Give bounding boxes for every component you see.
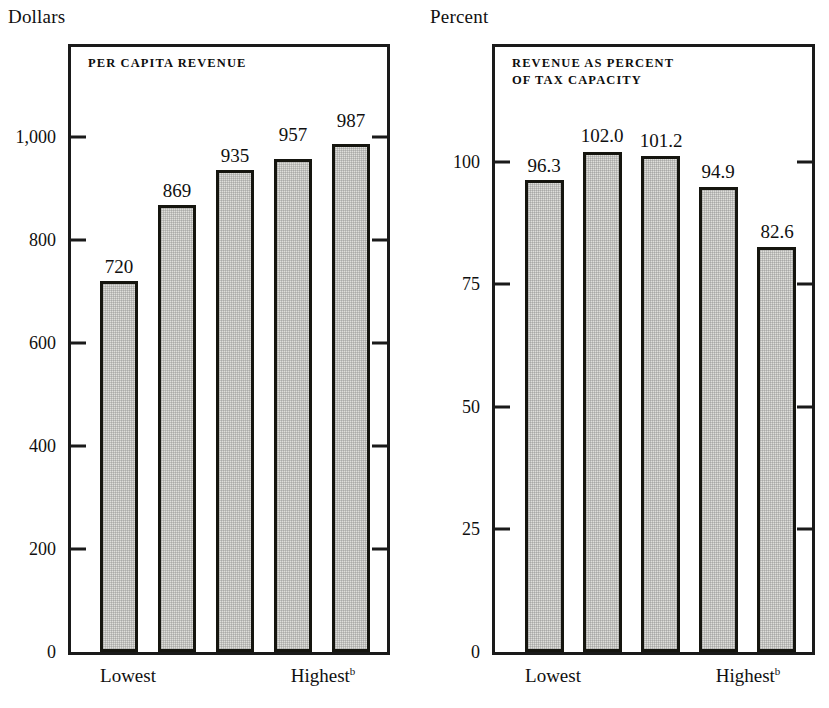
y-axis-title-percent: Percent [430, 6, 488, 28]
y-tick-label-400: 400 [0, 436, 56, 457]
bar-value-left-2: 869 [163, 180, 192, 202]
bar-value-left-1: 720 [105, 256, 134, 278]
bar-value-left-3: 935 [221, 145, 250, 167]
x-axis-label-highest-right-text: Highest [716, 665, 775, 686]
y-tick-mark-25 [493, 528, 510, 531]
bar-left-1 [100, 281, 138, 652]
bar-value-right-5: 82.6 [760, 221, 793, 243]
chart-caption-revenue-as-percent: REVENUE AS PERCENT OF TAX CAPACITY [512, 55, 674, 89]
y-tick-mark-right-600 [372, 342, 389, 345]
y-tick-mark-right-75 [797, 283, 814, 286]
y-tick-label-100: 100 [420, 152, 480, 173]
bar-value-left-5: 987 [337, 110, 366, 132]
y-tick-label-0: 0 [0, 642, 56, 663]
x-axis-label-highest-left-text: Highest [291, 665, 350, 686]
bar-right-3 [641, 156, 680, 652]
y-tick-mark-right-1000 [372, 136, 389, 139]
y-tick-label-1000: 1,000 [0, 127, 56, 148]
x-axis-label-highest-right: Highestb [716, 665, 781, 687]
bar-left-5 [332, 144, 370, 652]
y-tick-mark-75 [493, 283, 510, 286]
bar-left-2 [158, 205, 196, 652]
bar-right-5 [757, 247, 796, 652]
y-tick-label-50: 50 [420, 397, 480, 418]
chart-panel-per-capita-revenue: Dollars PER CAPITA REVENUE 1,000 800 600… [0, 0, 420, 708]
y-tick-label-0-right: 0 [420, 642, 480, 663]
y-tick-mark-200 [69, 548, 86, 551]
y-tick-mark-right-800 [372, 239, 389, 242]
footnote-marker-right: b [775, 665, 781, 677]
y-tick-label-800: 800 [0, 230, 56, 251]
y-tick-mark-1000 [69, 136, 86, 139]
y-axis-title-dollars: Dollars [8, 6, 65, 28]
bar-left-3 [216, 170, 254, 652]
y-tick-label-200: 200 [0, 539, 56, 560]
x-axis-label-lowest-left: Lowest [100, 665, 156, 687]
y-tick-label-600: 600 [0, 333, 56, 354]
y-tick-mark-600 [69, 342, 86, 345]
bar-value-right-1: 96.3 [527, 155, 560, 177]
bar-value-right-4: 94.9 [701, 161, 734, 183]
bar-left-4 [274, 159, 312, 652]
y-tick-mark-50 [493, 406, 510, 409]
y-tick-mark-100 [493, 161, 510, 164]
bar-value-left-4: 957 [279, 124, 308, 146]
y-tick-label-75: 75 [420, 274, 480, 295]
y-tick-mark-right-100 [797, 161, 814, 164]
y-tick-mark-right-50 [797, 406, 814, 409]
y-tick-label-25: 25 [420, 519, 480, 540]
y-tick-mark-right-200 [372, 548, 389, 551]
y-tick-mark-800 [69, 239, 86, 242]
bar-right-1 [525, 180, 564, 652]
figure-two-bar-charts: Dollars PER CAPITA REVENUE 1,000 800 600… [0, 0, 829, 708]
footnote-marker-left: b [350, 665, 356, 677]
x-axis-label-highest-left: Highestb [291, 665, 356, 687]
bar-right-2 [583, 152, 622, 652]
x-axis-label-lowest-right: Lowest [525, 665, 581, 687]
bar-value-right-3: 101.2 [640, 130, 683, 152]
y-tick-mark-400 [69, 445, 86, 448]
y-tick-mark-right-25 [797, 528, 814, 531]
chart-caption-per-capita-revenue: PER CAPITA REVENUE [88, 55, 246, 72]
bar-value-right-2: 102.0 [581, 125, 624, 147]
chart-panel-revenue-as-percent: Percent REVENUE AS PERCENT OF TAX CAPACI… [420, 0, 829, 708]
y-tick-mark-right-400 [372, 445, 389, 448]
bar-right-4 [699, 187, 738, 652]
